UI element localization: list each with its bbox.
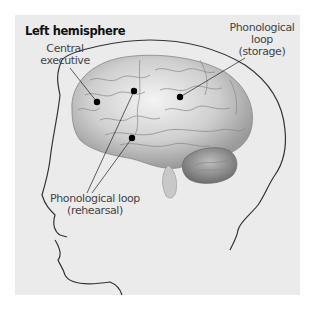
brain bbox=[72, 55, 253, 198]
marker-phonological-storage bbox=[177, 94, 183, 100]
marker-phonological-rehearsal-lower bbox=[129, 135, 135, 141]
label-phonological-rehearsal: Phonological loop (rehearsal) bbox=[40, 193, 150, 217]
diagram-title: Left hemisphere bbox=[25, 24, 125, 38]
label-central-executive: Central executive bbox=[30, 43, 100, 67]
marker-central-executive bbox=[94, 99, 100, 105]
label-phonological-storage: Phonological loop (storage) bbox=[222, 22, 302, 58]
marker-phonological-rehearsal-upper bbox=[131, 88, 137, 94]
